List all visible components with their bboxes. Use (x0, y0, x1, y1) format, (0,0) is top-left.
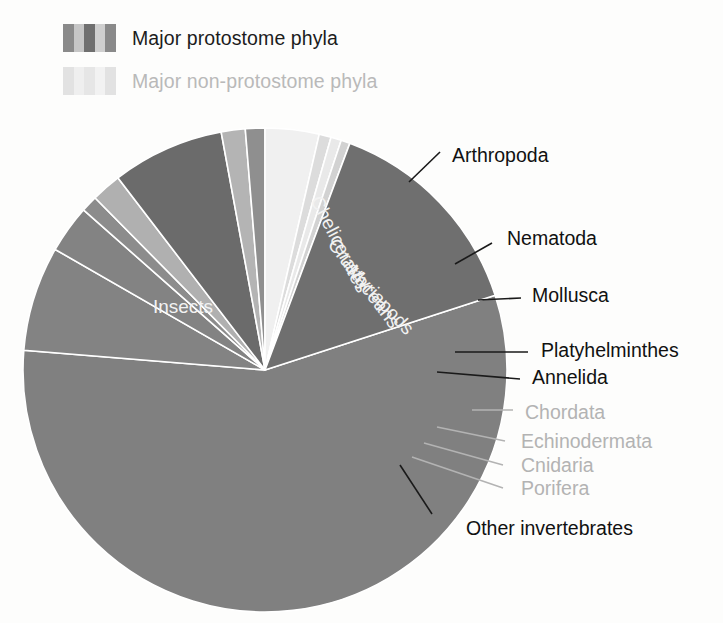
callout-label: Porifera (521, 477, 589, 499)
callout-label: Annelida (532, 366, 608, 388)
callout-label: Mollusca (532, 284, 609, 306)
callout-label: Platyhelminthes (541, 339, 679, 361)
slice-inside-label: Insects (153, 296, 213, 317)
callout-label: Cnidaria (521, 454, 594, 476)
chart-root: Major protostome phyla Major non-protost… (0, 0, 723, 623)
callout-leader-line (409, 152, 440, 182)
pie-slices-group[interactable] (23, 128, 507, 612)
pie-chart: InsectsCheliceratesCrustaceansMyriapods … (0, 0, 723, 623)
callout-label: Chordata (525, 401, 605, 423)
callout-label: Arthropoda (452, 144, 549, 166)
pie-svg: InsectsCheliceratesCrustaceansMyriapods … (0, 0, 723, 623)
callout-label: Other invertebrates (466, 517, 633, 539)
callout-label: Nematoda (507, 227, 597, 249)
callout-label: Echinodermata (521, 430, 652, 452)
